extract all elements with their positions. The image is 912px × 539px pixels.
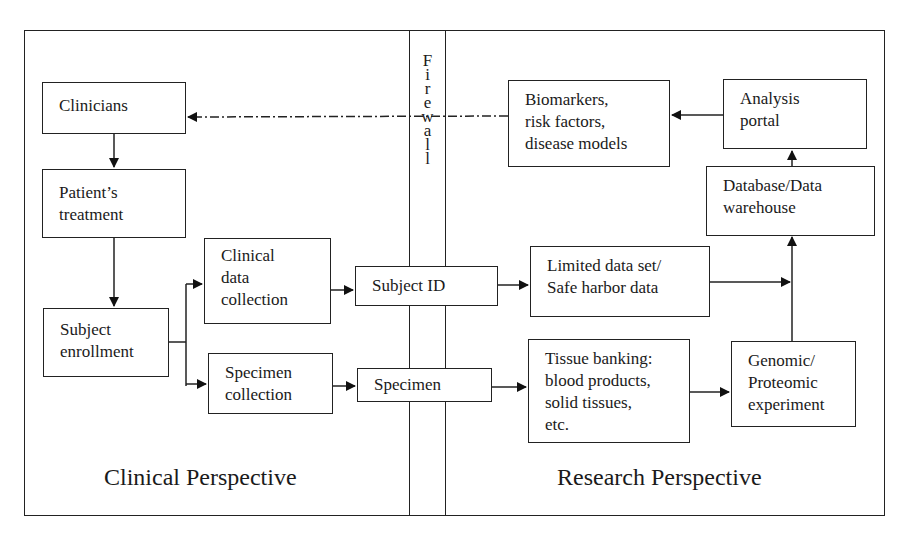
node-database: Database/Data warehouse — [706, 166, 875, 236]
node-label: disease models — [525, 133, 669, 155]
node-label: risk factors, — [525, 111, 669, 133]
node-label: portal — [740, 110, 866, 132]
node-genomic: Genomic/ Proteomic experiment — [731, 341, 856, 427]
node-label: blood products, — [545, 370, 689, 392]
node-label: solid tissues, — [545, 392, 689, 414]
node-label: Analysis — [740, 88, 866, 110]
node-label: Subject — [60, 319, 168, 341]
node-analysis-portal: Analysis portal — [723, 79, 867, 149]
node-label: warehouse — [723, 197, 874, 219]
node-clinicians: Clinicians — [42, 82, 186, 134]
node-label: Proteomic — [748, 372, 855, 394]
node-label: Tissue banking: — [545, 348, 689, 370]
node-label: Safe harbor data — [547, 277, 709, 299]
clinical-perspective-label: Clinical Perspective — [104, 464, 297, 491]
node-label: etc. — [545, 414, 689, 436]
node-label: Database/Data — [723, 175, 874, 197]
node-label: Specimen — [374, 374, 491, 396]
node-patients-treatment: Patient’s treatment — [42, 169, 186, 238]
node-subject-enrollment: Subject enrollment — [43, 308, 169, 377]
node-label: data — [221, 267, 330, 289]
node-specimen: Specimen — [357, 368, 492, 402]
node-label: Biomarkers, — [525, 89, 669, 111]
node-label: experiment — [748, 394, 855, 416]
node-biomarkers: Biomarkers, risk factors, disease models — [508, 80, 670, 167]
node-label: Clinicians — [59, 95, 185, 117]
node-label: collection — [221, 289, 330, 311]
node-label: Limited data set/ — [547, 255, 709, 277]
node-clinical-data-collection: Clinical data collection — [204, 238, 331, 324]
node-limited-data-set: Limited data set/ Safe harbor data — [530, 246, 710, 317]
node-label: Subject ID — [372, 275, 497, 297]
node-subject-id: Subject ID — [355, 266, 498, 306]
node-tissue-banking: Tissue banking: blood products, solid ti… — [528, 339, 690, 443]
node-specimen-collection: Specimen collection — [208, 353, 333, 414]
research-perspective-label: Research Perspective — [557, 464, 762, 491]
node-label: collection — [225, 384, 332, 406]
node-label: Clinical — [221, 245, 330, 267]
node-label: Patient’s — [59, 182, 185, 204]
node-label: treatment — [59, 204, 185, 226]
node-label: enrollment — [60, 341, 168, 363]
node-label: Specimen — [225, 362, 332, 384]
node-label: Genomic/ — [748, 350, 855, 372]
